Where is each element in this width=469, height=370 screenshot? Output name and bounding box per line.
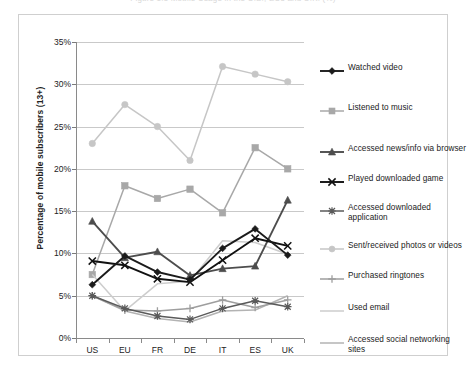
x-tick-label: IT	[219, 345, 227, 355]
legend-marker-icon	[319, 271, 345, 283]
series-accessed-news-info-via-browser	[89, 196, 292, 278]
legend-marker-icon	[319, 63, 345, 75]
y-tick-label: 0%	[59, 333, 71, 343]
legend-marker-glyph	[319, 176, 345, 188]
x-tick-mark	[304, 339, 305, 343]
legend-item-6[interactable]: Sent/received photos or videos	[319, 241, 469, 253]
series-layer	[76, 42, 304, 338]
legend-marker-glyph	[319, 305, 345, 317]
y-axis-title: Percentage of mobile subscribers (13+)	[35, 68, 45, 268]
x-tick-mark	[174, 339, 175, 343]
legend-item-3[interactable]: Accessed news/info via browser	[319, 144, 469, 156]
x-tick-mark	[141, 339, 142, 343]
y-tick-label: 35%	[54, 37, 71, 47]
x-tick-label: UK	[282, 345, 294, 355]
x-tick-mark	[271, 339, 272, 343]
legend-marker-glyph	[319, 205, 345, 217]
x-axis-line	[76, 338, 304, 339]
series-sent-received-photos-or-videos	[89, 63, 291, 163]
y-tick-label: 30%	[54, 79, 71, 89]
legend-item-2[interactable]: Listened to music	[319, 103, 469, 115]
legend-label: Used email	[345, 303, 389, 313]
y-tick-label: 5%	[59, 291, 71, 301]
x-tick-mark	[206, 339, 207, 343]
x-tick-label: EU	[119, 345, 131, 355]
x-tick-mark	[76, 339, 77, 343]
plot-wrapper: 0%5%10%15%20%25%30%35% USEUFRDEITESUK	[76, 39, 304, 341]
legend-item-5[interactable]: Accessed downloaded application	[319, 203, 469, 223]
series-listened-to-music	[89, 145, 291, 278]
x-tick-label: FR	[152, 345, 163, 355]
legend-marker-glyph	[319, 146, 345, 158]
legend-marker-glyph	[319, 337, 345, 349]
x-tick-label: US	[86, 345, 98, 355]
x-tick-label: DE	[184, 345, 196, 355]
legend-item-8[interactable]: Used email	[319, 303, 469, 315]
legend-label: Listened to music	[345, 103, 413, 113]
legend-label: Played downloaded game	[345, 174, 443, 184]
legend-label: Accessed news/info via browser	[345, 144, 466, 154]
legend-label: Accessed downloaded application	[345, 203, 469, 223]
legend-item-9[interactable]: Accessed social networking sites	[319, 335, 469, 355]
legend-marker-glyph	[319, 273, 345, 285]
legend-marker-glyph	[319, 65, 345, 77]
x-tick-label: ES	[249, 345, 260, 355]
legend-item-7[interactable]: Purchased ringtones	[319, 271, 469, 283]
y-tick-label: 15%	[54, 206, 71, 216]
figure-title: Figure 1.5 Mobile Usage in the U.S., EU5…	[0, 0, 466, 3]
legend-item-4[interactable]: Played downloaded game	[319, 174, 469, 186]
legend-label: Accessed social networking sites	[345, 335, 469, 355]
legend-label: Purchased ringtones	[345, 271, 424, 281]
y-tick-label: 20%	[54, 164, 71, 174]
legend-item-1[interactable]: Watched video	[319, 63, 469, 75]
legend-marker-icon	[319, 174, 345, 186]
legend-marker-glyph	[319, 243, 345, 255]
legend-marker-icon	[319, 335, 345, 347]
x-tick-mark	[239, 339, 240, 343]
legend-marker-icon	[319, 103, 345, 115]
legend-marker-icon	[319, 203, 345, 215]
chart-frame: Percentage of mobile subscribers (13+) 0…	[18, 14, 448, 356]
legend-marker-icon	[319, 144, 345, 156]
legend-marker-glyph	[319, 105, 345, 117]
legend-label: Watched video	[345, 63, 403, 73]
y-tick-label: 10%	[54, 248, 71, 258]
legend-marker-icon	[319, 303, 345, 315]
legend-label: Sent/received photos or videos	[345, 241, 462, 251]
y-tick-label: 25%	[54, 122, 71, 132]
legend-marker-icon	[319, 241, 345, 253]
x-tick-mark	[109, 339, 110, 343]
